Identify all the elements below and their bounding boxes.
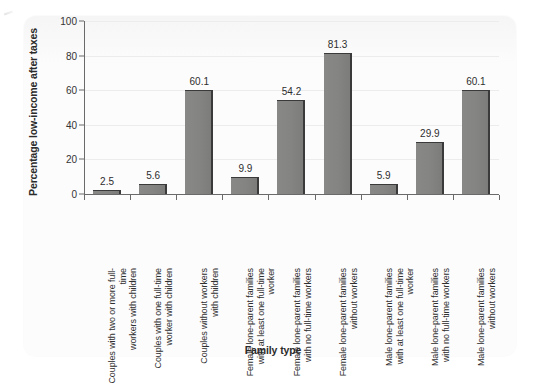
bar[interactable] bbox=[324, 53, 352, 194]
category-label-line: Couples without workers bbox=[199, 268, 210, 387]
category-label-line: Couples with one full-time bbox=[153, 268, 164, 387]
bar-slot: 81.3 bbox=[315, 21, 361, 194]
category-label-line: Male lone-parent families bbox=[430, 268, 441, 387]
x-tick-mark bbox=[499, 195, 500, 200]
bar-value-label: 54.2 bbox=[282, 86, 301, 97]
x-tick-mark bbox=[222, 195, 223, 200]
x-axis-title: Family type bbox=[0, 344, 546, 356]
bar-value-label: 2.5 bbox=[100, 176, 114, 187]
bar[interactable] bbox=[231, 177, 259, 194]
bar-slot: 54.2 bbox=[268, 21, 314, 194]
y-tick-label-0: 0 bbox=[71, 189, 77, 200]
bar-slot: 5.9 bbox=[361, 21, 407, 194]
category-label-line: Female lone-parent families bbox=[245, 268, 256, 387]
category-label-line: workers with children bbox=[128, 268, 139, 387]
x-axis-category-label: Couples with two or more full-timeworker… bbox=[107, 268, 139, 387]
y-tick-label-20: 20 bbox=[66, 154, 77, 165]
bar-value-label: 60.1 bbox=[190, 76, 209, 87]
x-tick-mark bbox=[84, 195, 85, 200]
category-label-line: without workers bbox=[348, 268, 359, 387]
category-label-line: Female lone-parent families bbox=[292, 268, 303, 387]
category-label-line: worker bbox=[266, 268, 277, 387]
bar[interactable] bbox=[416, 142, 444, 194]
bar-value-label: 60.1 bbox=[466, 76, 485, 87]
bar-slot: 60.1 bbox=[176, 21, 222, 194]
scan-artifact-speck bbox=[4, 11, 13, 16]
category-label-line: Male lone-parent families bbox=[384, 268, 395, 387]
bar[interactable] bbox=[93, 190, 121, 194]
category-label-line: without workers bbox=[486, 268, 497, 387]
bar-slot: 29.9 bbox=[407, 21, 453, 194]
category-label-line: worker with children bbox=[164, 268, 175, 387]
y-tick-label-40: 40 bbox=[66, 119, 77, 130]
category-label-line: Couples with two or more full-time bbox=[107, 268, 128, 387]
x-axis-category-label: Male lone-parent familieswith no full-ti… bbox=[430, 268, 451, 387]
x-tick-mark bbox=[453, 195, 454, 200]
x-axis-category-label: Female lone-parent familieswithout worke… bbox=[338, 268, 359, 387]
x-tick-mark bbox=[407, 195, 408, 200]
y-tick-label-100: 100 bbox=[60, 16, 77, 27]
bar[interactable] bbox=[139, 184, 167, 194]
y-tick-label-60: 60 bbox=[66, 85, 77, 96]
y-axis-title: Percentage low-income after taxes bbox=[26, 24, 40, 200]
x-axis-line bbox=[84, 194, 499, 195]
bar-value-label: 29.9 bbox=[420, 128, 439, 139]
x-axis-category-label: Male lone-parent familieswithout workers bbox=[476, 268, 497, 387]
bar-slot: 2.5 bbox=[84, 21, 130, 194]
x-axis-category-label: Couples without workerswith children bbox=[199, 268, 220, 387]
category-label-line: with at least one full-time bbox=[394, 268, 405, 387]
y-tick-label-80: 80 bbox=[66, 50, 77, 61]
category-label-line: Female lone-parent families bbox=[338, 268, 349, 387]
category-label-line: worker bbox=[405, 268, 416, 387]
bar-value-label: 81.3 bbox=[328, 39, 347, 50]
x-axis-category-label: Female lone-parent familieswith at least… bbox=[245, 268, 277, 387]
bar[interactable] bbox=[462, 90, 490, 194]
x-axis-category-label: Male lone-parent familieswith at least o… bbox=[384, 268, 416, 387]
bar-value-label: 5.6 bbox=[146, 170, 160, 181]
category-label-line: with no full-time workers bbox=[440, 268, 451, 387]
bar-value-label: 9.9 bbox=[238, 163, 252, 174]
category-label-line: Male lone-parent families bbox=[476, 268, 487, 387]
x-tick-mark bbox=[268, 195, 269, 200]
bar[interactable] bbox=[370, 184, 398, 194]
x-tick-mark bbox=[130, 195, 131, 200]
category-label-line: with children bbox=[210, 268, 221, 387]
bar[interactable] bbox=[277, 100, 305, 194]
bar[interactable] bbox=[185, 90, 213, 194]
x-tick-mark bbox=[361, 195, 362, 200]
bar-slot: 60.1 bbox=[453, 21, 499, 194]
x-axis-category-label: Female lone-parent familieswith no full-… bbox=[292, 268, 313, 387]
bars-layer: 2.55.660.19.954.281.35.929.960.1 bbox=[84, 21, 499, 194]
x-tick-mark bbox=[315, 195, 316, 200]
bar-value-label: 5.9 bbox=[377, 170, 391, 181]
x-axis-category-labels: Couples with two or more full-timeworker… bbox=[84, 203, 499, 335]
category-label-line: with no full-time workers bbox=[302, 268, 313, 387]
bar-slot: 5.6 bbox=[130, 21, 176, 194]
bar-slot: 9.9 bbox=[222, 21, 268, 194]
x-tick-mark bbox=[176, 195, 177, 200]
x-axis-category-label: Couples with one full-timeworker with ch… bbox=[153, 268, 174, 387]
category-label-line: with at least one full-time bbox=[256, 268, 267, 387]
